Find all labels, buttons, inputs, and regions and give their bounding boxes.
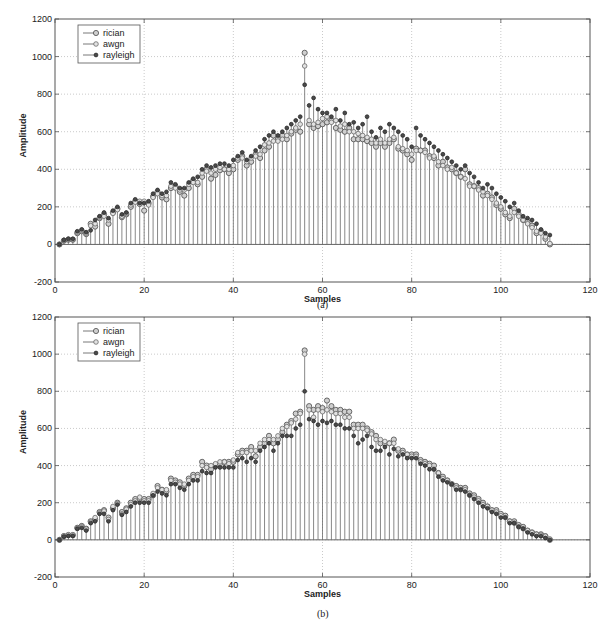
y-axis-label: Amplitude [18,114,28,158]
legend-marker-icon [93,328,98,333]
legend: ricianawgnrayleigh [78,323,140,361]
x-tick-label: 80 [407,285,417,295]
y-tick-label: -200 [34,572,52,582]
legend-marker-icon [94,42,99,47]
legend-marker-icon [94,340,99,345]
y-tick-label: 400 [37,461,52,471]
y-tick-label: -200 [34,277,52,287]
legend-label: awgn [103,39,125,49]
x-tick-label: 20 [139,580,149,590]
legend: ricianawgnrayleigh [78,25,140,63]
x-tick-label: 0 [52,580,57,590]
x-axis-label: Samples [304,589,341,599]
y-tick-label: 800 [37,89,52,99]
x-tick-label: 100 [493,580,508,590]
x-tick-label: 80 [407,580,417,590]
figure-svg: 020406080100120-200020040060080010001200… [0,0,615,622]
x-tick-label: 120 [582,285,597,295]
y-tick-label: 800 [37,386,52,396]
y-tick-label: 1200 [32,14,52,24]
caption-b: (b) [317,608,329,619]
y-axis-label: Amplitude [18,410,28,454]
legend-marker-icon [94,351,98,355]
legend-label: awgn [103,337,125,347]
x-tick-label: 40 [228,285,238,295]
legend-marker-icon [93,30,98,35]
x-tick-label: 20 [139,285,149,295]
x-tick-label: 0 [52,285,57,295]
x-tick-label: 40 [228,580,238,590]
y-tick-label: 200 [37,498,52,508]
chart-panel-b: 020406080100120-200020040060080010001200… [18,312,598,599]
y-tick-label: 0 [47,239,52,249]
y-tick-label: 400 [37,164,52,174]
x-tick-label: 100 [493,285,508,295]
legend-label: rician [103,28,125,38]
legend-label: rayleigh [103,50,135,60]
figure: 020406080100120-200020040060080010001200… [0,0,615,622]
y-tick-label: 0 [47,535,52,545]
y-tick-label: 600 [37,423,52,433]
legend-label: rician [103,326,125,336]
legend-marker-icon [94,53,98,57]
y-tick-label: 200 [37,202,52,212]
y-tick-label: 1000 [32,349,52,359]
caption-a: (a) [317,299,328,310]
x-tick-label: 120 [582,580,597,590]
y-tick-label: 1000 [32,52,52,62]
legend-label: rayleigh [103,348,135,358]
chart-panel-a: 020406080100120-200020040060080010001200… [18,14,598,304]
y-tick-label: 600 [37,127,52,137]
y-tick-label: 1200 [32,312,52,322]
